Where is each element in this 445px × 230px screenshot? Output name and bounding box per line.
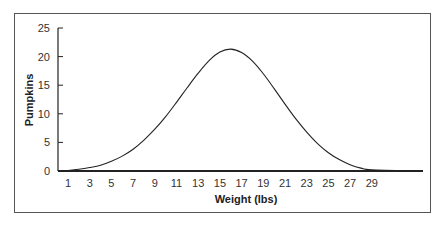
y-tick-label: 5 xyxy=(44,136,50,148)
x-tick-label: 11 xyxy=(171,177,182,189)
x-axis-ticks: 1357911131517192123252729 xyxy=(65,177,378,189)
y-tick-label: 15 xyxy=(38,79,50,91)
x-tick-label: 3 xyxy=(87,177,93,189)
y-axis-title: Pumpkins xyxy=(23,74,35,127)
x-tick-label: 27 xyxy=(344,177,356,189)
x-tick-label: 5 xyxy=(108,177,114,189)
x-axis-title: Weight (lbs) xyxy=(215,193,278,205)
distribution-curve xyxy=(60,49,420,171)
y-tick-label: 20 xyxy=(38,51,50,63)
x-tick-label: 21 xyxy=(279,177,291,189)
y-axis-ticks: 0510152025 xyxy=(38,22,63,177)
y-tick-label: 0 xyxy=(44,165,50,177)
x-tick-label: 15 xyxy=(214,177,226,189)
x-tick-label: 25 xyxy=(322,177,334,189)
x-tick-label: 1 xyxy=(65,177,71,189)
x-tick-label: 17 xyxy=(235,177,247,189)
x-tick-label: 13 xyxy=(192,177,204,189)
x-tick-label: 23 xyxy=(301,177,313,189)
y-tick-label: 10 xyxy=(38,108,50,120)
y-tick-label: 25 xyxy=(38,22,50,34)
x-tick-label: 9 xyxy=(152,177,158,189)
x-tick-label: 29 xyxy=(366,177,378,189)
x-tick-label: 19 xyxy=(257,177,269,189)
bell-curve-chart: 0510152025 1357911131517192123252729 Pum… xyxy=(0,0,445,230)
x-tick-label: 7 xyxy=(130,177,136,189)
